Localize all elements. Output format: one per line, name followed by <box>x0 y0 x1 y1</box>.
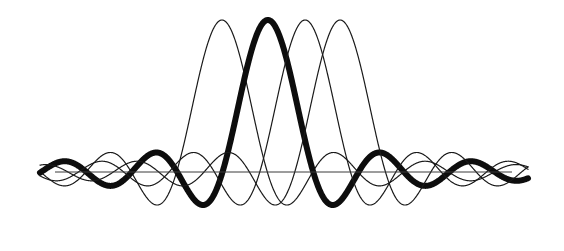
figure-root <box>0 0 564 251</box>
waveform-chart <box>0 0 564 251</box>
